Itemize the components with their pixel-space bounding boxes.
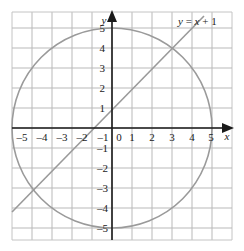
coordinate-plane-svg: x y 0 –5 –4 –3 –2 –1 1 2 3 4 5 5 4 3 2 1… xyxy=(0,0,244,251)
line-equation-label: y = x + 1 xyxy=(177,15,217,27)
x-tick-label: 5 xyxy=(208,131,214,143)
line-equation-rest: + 1 xyxy=(200,15,217,27)
x-tick-label: 4 xyxy=(189,131,195,143)
y-tick-label: –4 xyxy=(96,202,109,214)
figure-background xyxy=(0,0,244,251)
x-tick-label: –5 xyxy=(16,131,29,143)
graph-figure: x y 0 –5 –4 –3 –2 –1 1 2 3 4 5 5 4 3 2 1… xyxy=(0,0,244,251)
y-tick-label: –2 xyxy=(96,162,108,174)
y-tick-label: 2 xyxy=(100,82,106,94)
y-tick-label: 1 xyxy=(100,102,106,114)
x-tick-label: 3 xyxy=(169,131,175,143)
y-tick-label: –5 xyxy=(96,222,109,234)
y-tick-label: –1 xyxy=(96,142,108,154)
x-tick-label: 1 xyxy=(129,131,135,143)
y-tick-label: 4 xyxy=(100,42,106,54)
y-tick-label: 5 xyxy=(100,22,106,34)
origin-label: 0 xyxy=(116,131,122,143)
line-equation-eq: = xyxy=(183,15,195,27)
x-axis-label: x xyxy=(224,130,230,142)
y-tick-label: 3 xyxy=(100,62,106,74)
y-tick-label: –3 xyxy=(96,182,109,194)
x-tick-label: –2 xyxy=(76,131,88,143)
x-tick-label: –3 xyxy=(56,131,69,143)
x-tick-label: 2 xyxy=(149,131,155,143)
x-tick-label: –4 xyxy=(36,131,49,143)
